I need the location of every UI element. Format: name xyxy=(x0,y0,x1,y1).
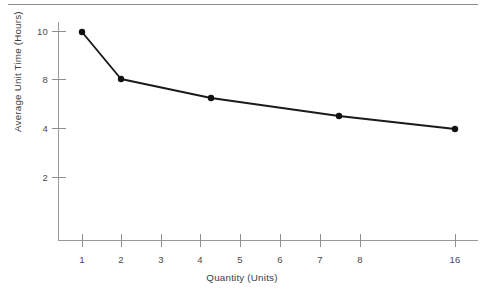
x-tick-label: 6 xyxy=(277,254,282,265)
x-tick-label: 2 xyxy=(118,254,123,265)
x-tick-label: 8 xyxy=(357,254,362,265)
axes-group xyxy=(58,22,478,241)
data-point-marker xyxy=(452,126,458,132)
x-tick-label: 4 xyxy=(197,254,202,265)
x-tick-label: 3 xyxy=(158,254,163,265)
x-tick-label: 16 xyxy=(450,254,461,265)
series-markers xyxy=(79,29,458,132)
y-tick-label: 8 xyxy=(24,74,48,85)
data-point-marker xyxy=(118,76,124,82)
x-tick-label: 1 xyxy=(79,254,84,265)
series-line-path xyxy=(82,32,455,129)
data-point-marker xyxy=(336,113,342,119)
y-tick-label: 4 xyxy=(24,123,48,134)
x-tick-label: 5 xyxy=(237,254,242,265)
data-point-marker xyxy=(208,95,214,101)
x-axis-title: Quantity (Units) xyxy=(0,272,484,283)
data-point-marker xyxy=(79,29,85,35)
chart-figure: 24810 1234567816 Average Unit Time (Hour… xyxy=(0,0,484,305)
x-tick-label: 7 xyxy=(317,254,322,265)
y-axis-title: Average Unit Time (Hours) xyxy=(12,11,23,132)
y-tick-label: 2 xyxy=(24,172,48,183)
series-group xyxy=(79,29,458,132)
y-tick-label: 10 xyxy=(24,26,48,37)
